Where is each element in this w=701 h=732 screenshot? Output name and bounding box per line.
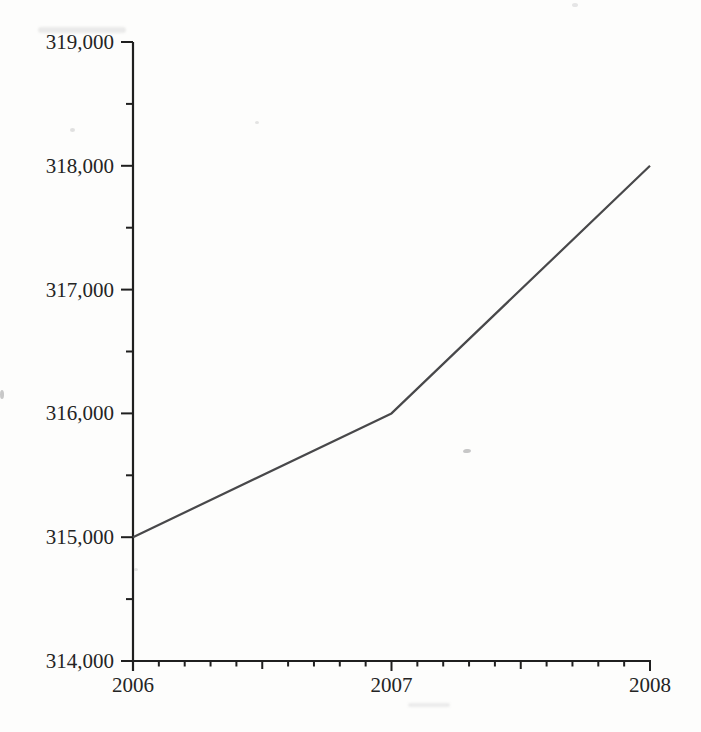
x-tick-label: 2008 xyxy=(629,673,671,697)
scanned-line-chart-figure: 314,000315,000316,000317,000318,000319,0… xyxy=(0,0,701,732)
y-tick-label: 314,000 xyxy=(46,649,114,673)
line-chart: 314,000315,000316,000317,000318,000319,0… xyxy=(0,0,701,732)
y-tick-label: 318,000 xyxy=(46,154,114,178)
y-tick-label: 319,000 xyxy=(46,30,114,54)
x-tick-label: 2007 xyxy=(371,673,413,697)
y-tick-label: 316,000 xyxy=(46,401,114,425)
y-tick-label: 315,000 xyxy=(46,525,114,549)
series-line xyxy=(133,166,650,537)
x-tick-label: 2006 xyxy=(112,673,154,697)
y-tick-label: 317,000 xyxy=(46,278,114,302)
